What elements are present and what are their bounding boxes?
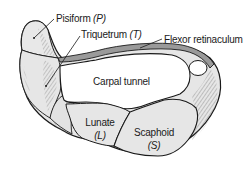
scaphoid-label: Scaphoid (S) — [132, 127, 176, 151]
ulnar-canal-hole — [189, 61, 207, 76]
carpal-tunnel-name: Carpal tunnel — [93, 76, 150, 87]
pisiform-abbr: (P) — [93, 13, 106, 24]
scaphoid-name: Scaphoid — [132, 127, 176, 138]
carpal-tunnel-label: Carpal tunnel — [93, 76, 150, 87]
triquetrum-abbr: (T) — [130, 29, 142, 40]
flexor-retinaculum-label: Flexor retinaculum — [164, 34, 243, 45]
scaphoid-abbr: (S) — [132, 140, 176, 151]
pisiform-label: Pisiform (P) — [56, 13, 106, 24]
pisiform-name: Pisiform — [56, 13, 91, 24]
flexor-retinaculum-name: Flexor retinaculum — [164, 34, 243, 45]
triquetrum-name: Triquetrum — [81, 29, 127, 40]
lunate-abbr: (L) — [82, 130, 118, 141]
triquetrum-label: Triquetrum (T) — [81, 29, 142, 40]
lunate-name: Lunate — [82, 117, 118, 128]
lunate-label: Lunate (L) — [82, 117, 118, 141]
